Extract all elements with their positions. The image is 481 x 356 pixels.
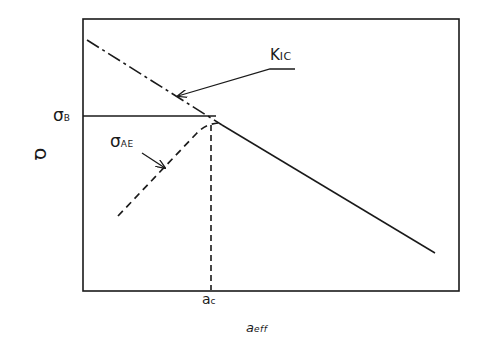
fracture-diagram <box>0 0 481 356</box>
sigma-b-label-main: σ <box>53 105 64 125</box>
sigma-ae-label-sub: AE <box>121 139 134 149</box>
ac-label: ac <box>202 292 216 306</box>
sigma-ae-leader-arrow <box>142 153 165 168</box>
kic-label-main: K <box>270 46 280 64</box>
x-axis-label-sub: eff <box>254 324 267 334</box>
kic-label-sub: IC <box>280 50 292 63</box>
kic-line-dashdot <box>87 40 222 125</box>
ac-label-sub: c <box>211 296 216 306</box>
sigma-ae-label-main: σ <box>110 131 121 151</box>
x-axis-label: aeff <box>246 321 267 334</box>
kic-line-solid <box>222 125 435 253</box>
kic-leader-arrow <box>178 69 295 96</box>
sigma-b-label: σB <box>53 107 70 124</box>
sigma-b-label-sub: B <box>64 113 71 123</box>
kic-label: KIC <box>270 48 292 63</box>
ac-label-main: a <box>202 291 211 307</box>
y-axis-label: σ <box>29 148 49 161</box>
x-axis-label-main: a <box>246 320 254 335</box>
sigma-ae-label: σAE <box>110 133 134 150</box>
